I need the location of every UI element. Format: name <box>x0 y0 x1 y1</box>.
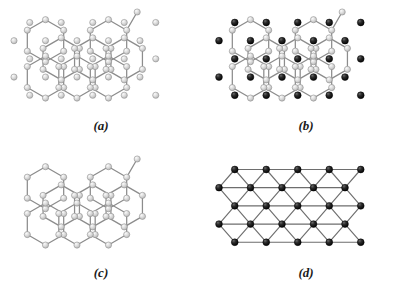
light-atom <box>90 92 96 98</box>
light-atom <box>24 210 30 216</box>
light-atom <box>245 45 251 51</box>
light-atom <box>266 48 272 54</box>
dark-atom <box>263 55 270 62</box>
light-atom <box>24 84 30 90</box>
light-atom <box>263 77 269 83</box>
light-atom <box>229 27 235 33</box>
light-atom <box>124 48 130 54</box>
light-atom <box>90 182 96 188</box>
light-atom <box>74 38 80 44</box>
dark-atom <box>231 239 238 246</box>
dark-atom <box>294 202 301 209</box>
light-atom <box>42 95 48 101</box>
light-atom <box>42 74 48 80</box>
light-atom <box>11 38 17 44</box>
light-atom <box>121 224 127 230</box>
light-atom <box>137 74 143 80</box>
dark-atom <box>342 37 349 44</box>
light-atom <box>71 192 77 198</box>
dark-atom <box>279 37 286 44</box>
light-atom <box>105 17 111 23</box>
dark-atom <box>342 184 349 191</box>
dark-atom <box>357 19 364 26</box>
light-atom <box>310 95 316 101</box>
light-atom <box>124 195 130 201</box>
light-atom <box>229 48 235 54</box>
dark-atom <box>247 184 254 191</box>
light-atom <box>292 84 298 90</box>
light-atom <box>279 53 285 59</box>
dark-atom <box>279 184 286 191</box>
light-atom <box>329 84 335 90</box>
dark-atom <box>357 166 364 173</box>
light-atom <box>139 66 145 72</box>
dark-atom <box>231 166 238 173</box>
light-atom <box>292 63 298 69</box>
light-atom <box>90 56 96 62</box>
light-atom <box>310 59 316 65</box>
light-atom <box>42 59 48 65</box>
light-atom <box>24 195 30 201</box>
light-atom <box>247 95 253 101</box>
light-atom <box>292 48 298 54</box>
light-atom <box>58 182 64 188</box>
light-atom <box>103 192 109 198</box>
light-atom <box>276 45 282 51</box>
dark-atom <box>357 92 364 99</box>
light-atom <box>71 213 77 219</box>
dark-atom <box>231 92 238 99</box>
light-atom <box>329 27 335 33</box>
light-atom <box>103 66 109 72</box>
light-atom <box>279 95 285 101</box>
light-atom <box>292 27 298 33</box>
light-atom <box>74 200 80 206</box>
light-atom <box>56 210 62 216</box>
light-atom <box>42 242 48 248</box>
light-atom <box>121 77 127 83</box>
light-atom <box>42 17 48 23</box>
light-atom <box>90 224 96 230</box>
dark-atom <box>216 37 223 44</box>
dark-atom <box>216 74 223 81</box>
light-atom <box>24 174 30 180</box>
light-atom <box>56 84 62 90</box>
light-atom <box>24 231 30 237</box>
light-atom <box>87 210 93 216</box>
light-atom <box>58 35 64 41</box>
light-atom <box>24 63 30 69</box>
light-atom <box>247 17 253 23</box>
light-atom <box>153 19 159 25</box>
dark-atom <box>279 221 286 228</box>
light-atom <box>90 35 96 41</box>
light-atom <box>124 27 130 33</box>
light-atom <box>61 195 67 201</box>
light-atom <box>124 231 130 237</box>
light-atom <box>27 56 33 62</box>
light-atom <box>229 63 235 69</box>
dark-atom <box>231 19 238 26</box>
dark-atom <box>294 166 301 173</box>
light-atom <box>137 38 143 44</box>
light-atom <box>121 35 127 41</box>
light-atom <box>295 35 301 41</box>
panel-d-label: (d) <box>298 265 313 280</box>
light-atom <box>247 59 253 65</box>
dark-atom <box>310 74 317 81</box>
light-atom <box>105 164 111 170</box>
dark-atom <box>231 55 238 62</box>
light-atom <box>87 48 93 54</box>
dark-atom <box>263 19 270 26</box>
light-atom <box>245 66 251 72</box>
light-atom <box>124 210 130 216</box>
dark-atom <box>357 55 364 62</box>
dark-atom <box>247 221 254 228</box>
light-atom <box>61 174 67 180</box>
light-atom <box>87 84 93 90</box>
dark-atom <box>279 74 286 81</box>
light-atom <box>61 27 67 33</box>
light-atom <box>61 48 67 54</box>
dark-atom <box>342 74 349 81</box>
light-atom <box>229 84 235 90</box>
light-atom <box>105 38 111 44</box>
dark-atom <box>342 221 349 228</box>
